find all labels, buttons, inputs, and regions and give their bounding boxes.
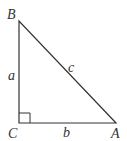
side-label-b: b <box>63 125 70 140</box>
vertex-label-a: A <box>110 126 120 141</box>
vertex-label-c: C <box>8 126 18 141</box>
right-angle-marker <box>19 113 30 123</box>
triangle-diagram: B a c C b A <box>0 0 127 141</box>
side-label-a: a <box>8 68 15 83</box>
vertex-label-b: B <box>7 7 16 22</box>
side-label-c: c <box>68 60 75 75</box>
